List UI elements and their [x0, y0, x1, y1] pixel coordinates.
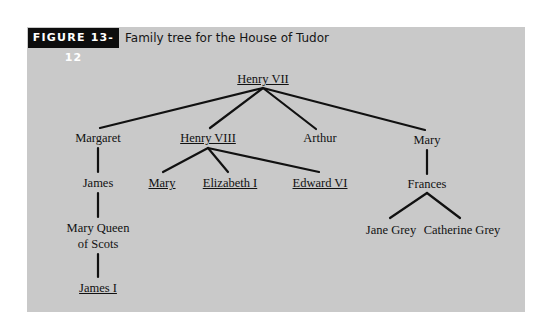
node-catherine-grey: Catherine Grey: [424, 223, 501, 237]
node-jane-grey: Jane Grey: [366, 223, 416, 237]
node-james: James: [83, 176, 114, 190]
edge-henryvii-margaret: [100, 88, 263, 128]
node-frances: Frances: [408, 177, 447, 191]
node-henry-viii: Henry VIII: [180, 131, 236, 145]
node-henry-vii: Henry VII: [237, 72, 289, 86]
edge-henryviii-mary: [163, 148, 208, 172]
node-margaret: Margaret: [75, 131, 121, 145]
edge-henryvii-mary: [263, 88, 425, 130]
node-arthur: Arthur: [303, 131, 336, 145]
node-mary-queen-of-scots-line2: of Scots: [78, 237, 119, 251]
node-mary-sister: Mary: [413, 133, 440, 147]
node-elizabeth-i: Elizabeth I: [203, 176, 258, 190]
node-mary-i: Mary: [148, 176, 175, 190]
edge-frances-catherine: [427, 193, 460, 218]
node-james-i: James I: [79, 281, 117, 295]
node-mary-queen-of-scots-line1: Mary Queen: [67, 221, 130, 235]
edge-frances-jane: [390, 193, 427, 218]
node-edward-vi: Edward VI: [293, 176, 348, 190]
